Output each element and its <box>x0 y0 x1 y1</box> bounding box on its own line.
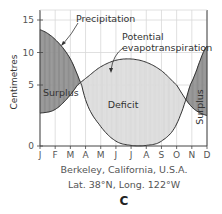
x-tick-label: O <box>173 150 180 160</box>
x-tick-label: A <box>82 150 89 160</box>
annotation-pet-line1: Potential <box>122 31 164 42</box>
coordinates-caption: Lat. 38°N, Long. 122°W <box>68 179 181 190</box>
x-tick-label: J <box>114 150 118 160</box>
y-tick-label: 0 <box>28 141 34 151</box>
annotation-pet-line2: evapotranspiration <box>122 42 212 53</box>
label-surplus-right: Surplus <box>194 89 205 125</box>
label-deficit: Deficit <box>108 99 139 110</box>
y-tick-label: 5 <box>28 80 34 90</box>
x-tick-label: S <box>159 150 165 160</box>
y-tick-label: 15 <box>23 15 34 25</box>
y-tick-label: 10 <box>23 48 35 58</box>
x-tick-label: F <box>53 150 58 160</box>
x-tick-label: J <box>38 150 42 160</box>
x-tick-label: N <box>188 150 195 160</box>
x-tick-label: A <box>143 150 150 160</box>
annotation-precipitation: Precipitation <box>76 13 135 24</box>
label-surplus-left: Surplus <box>43 87 79 98</box>
x-tick-label: D <box>204 150 211 160</box>
x-tick-label: J <box>129 150 133 160</box>
x-tick-label: M <box>66 150 74 160</box>
y-axis-label: Centimetres <box>9 54 19 109</box>
water-balance-chart: 051015JFMAMJJASOND Centimetres Precipita… <box>0 0 222 214</box>
x-tick-label: M <box>97 150 105 160</box>
panel-label: C <box>120 194 129 208</box>
x-axis-caption: Berkeley, California, U.S.A. <box>61 164 188 175</box>
